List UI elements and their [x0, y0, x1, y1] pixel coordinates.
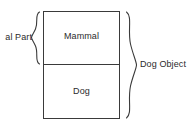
right-curly-brace-icon [127, 12, 137, 118]
left-curly-brace-icon [32, 12, 40, 64]
brace-label-dog-object: Dog Object [140, 59, 186, 70]
brace-label-animal-part: al Part [0, 32, 32, 43]
box-label-mammal: Mammal [43, 31, 120, 42]
diagram-canvas: Mammal Dog al Part Dog Object [0, 0, 194, 127]
box-label-dog: Dog [43, 86, 120, 97]
